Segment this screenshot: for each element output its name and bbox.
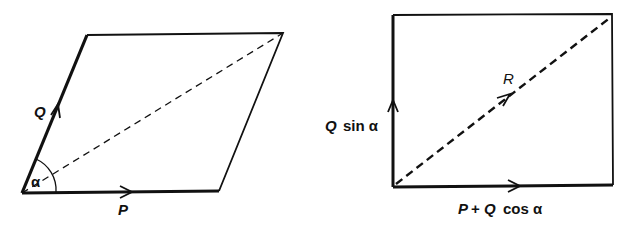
resultant-diagonal — [22, 33, 283, 193]
horizontal-component-line — [393, 185, 613, 187]
label-Q: Q — [34, 103, 46, 120]
label-plus: + — [471, 200, 480, 217]
vector-Q-line — [22, 35, 87, 193]
parallelogram-thin-edges — [87, 33, 283, 191]
label-Q-sin-symbol: Q — [325, 117, 337, 134]
vector-diagram: Q α P R Q sin α P + Q cos α — [0, 0, 629, 233]
resultant-R-line — [396, 17, 611, 184]
label-Q-cos-symbol: Q — [484, 200, 496, 217]
label-R: R — [503, 70, 514, 87]
label-P: P — [118, 201, 129, 218]
label-Q-cos-fn: cos α — [503, 200, 543, 217]
label-alpha: α — [31, 173, 41, 190]
vector-P-line — [22, 191, 219, 193]
rectangle-figure: R Q sin α P + Q cos α — [325, 14, 613, 217]
parallelogram-figure: Q α P — [22, 33, 283, 218]
label-P-sum: P — [458, 200, 469, 217]
label-Q-sin-fn: sin α — [343, 117, 379, 134]
